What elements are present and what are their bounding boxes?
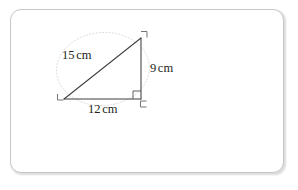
label-vertical-unit: cm: [158, 61, 173, 75]
label-base: 12cm: [88, 103, 118, 116]
corner-tick-bottom-left-icon: [58, 94, 64, 100]
label-hypotenuse-value: 15: [62, 48, 75, 62]
label-base-unit: cm: [102, 102, 117, 116]
label-vertical-value: 9: [150, 61, 156, 75]
triangle-figure: [0, 0, 298, 190]
label-hypotenuse: 15cm: [62, 49, 92, 62]
diagram-canvas: 15cm 9cm 12cm: [0, 0, 298, 190]
corner-tick-top-icon: [141, 32, 147, 38]
label-vertical: 9cm: [150, 62, 173, 75]
label-base-value: 12: [88, 102, 101, 116]
label-hypotenuse-unit: cm: [76, 48, 91, 62]
corner-tick-bottom-right-icon: [141, 101, 147, 107]
